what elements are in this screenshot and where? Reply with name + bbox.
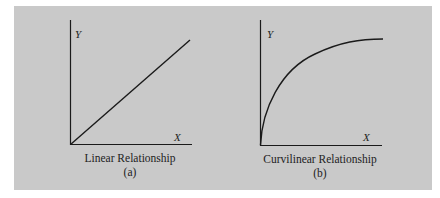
sub-label: (a) <box>124 166 137 179</box>
y-axis-label: Y <box>75 28 83 40</box>
x-axis-label: X <box>362 131 371 143</box>
figure-linear: Y X Linear Relationship (a) <box>70 20 192 179</box>
caption: Linear Relationship <box>84 152 175 165</box>
caption: Curvilinear Relationship <box>263 153 377 166</box>
relationship-diagrams: Y X Linear Relationship (a) Y X Curvilin… <box>0 0 440 198</box>
linear-line <box>71 40 191 145</box>
x-axis-label: X <box>173 131 182 143</box>
curvilinear-curve <box>261 39 384 145</box>
sub-label: (b) <box>313 167 327 180</box>
y-axis-label: Y <box>267 28 275 40</box>
figure-curvilinear: Y X Curvilinear Relationship (b) <box>260 20 383 180</box>
